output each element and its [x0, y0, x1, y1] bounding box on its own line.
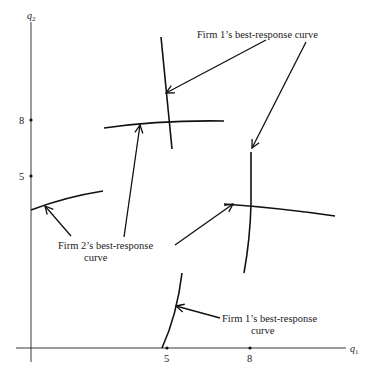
- x-tick-8-dot: [248, 346, 251, 349]
- panel-bottom: [162, 273, 182, 348]
- firm2-curve-left: [31, 191, 103, 210]
- x-axis-label: q1: [350, 343, 359, 356]
- x-tick-8: 8: [247, 353, 252, 364]
- arrow-firm1-top-left: [166, 40, 266, 93]
- label-firm2-line1: Firm 2’s best-response: [58, 240, 153, 251]
- firm1-curve-right: [244, 152, 251, 273]
- y-tick-5-dot: [29, 174, 32, 177]
- label-firm1-top: Firm 1’s best-response curve: [197, 29, 318, 40]
- y-tick-8-dot: [29, 118, 32, 121]
- x-tick-5-dot: [165, 346, 168, 349]
- firm2-curve-top: [104, 121, 224, 128]
- best-response-diagram: q2 q1 8 5 5 8 Firm 1’s b: [0, 0, 373, 375]
- y-tick-5: 5: [19, 171, 24, 182]
- y-tick-8: 8: [19, 115, 24, 126]
- arrow-firm1-bottom: [176, 306, 220, 318]
- firm2-curve-right: [224, 204, 335, 216]
- y-axis-label: q2: [27, 10, 36, 23]
- panel-right: [224, 152, 335, 273]
- arrow-firm1-top-right: [252, 42, 306, 148]
- panel-left: [31, 191, 103, 210]
- label-firm2-line2: curve: [84, 252, 108, 263]
- annotation-arrows: [45, 40, 306, 318]
- label-firm1-bottom-line1: Firm 1’s best-response: [222, 313, 317, 324]
- annotation-labels: Firm 1’s best-response curve Firm 2’s be…: [58, 29, 318, 336]
- arrow-firm2-to-left: [45, 206, 71, 236]
- label-firm1-bottom-line2: curve: [251, 325, 275, 336]
- arrow-firm2-to-top: [124, 125, 140, 237]
- panel-top: [104, 37, 224, 149]
- axes: q2 q1 8 5 5 8: [16, 10, 359, 364]
- x-tick-5: 5: [164, 353, 169, 364]
- arrow-firm2-to-right: [175, 204, 233, 245]
- firm1-curve-bottom: [162, 273, 182, 348]
